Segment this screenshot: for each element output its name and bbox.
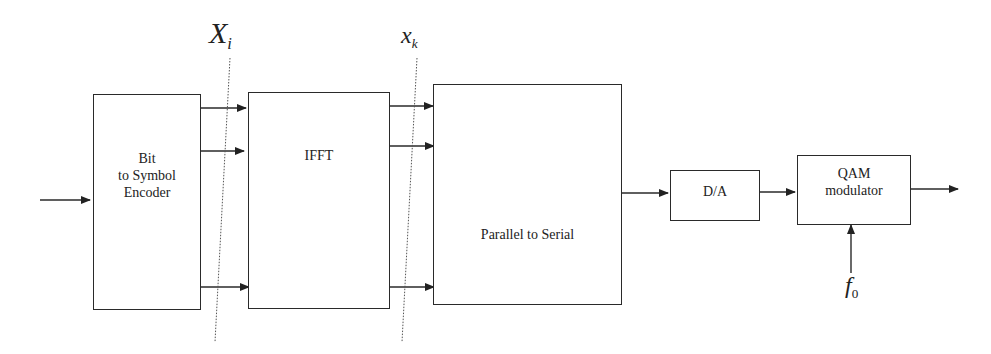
carrier-frequency-label: f0 <box>845 272 858 302</box>
p2s-label: Parallel to Serial <box>433 226 622 243</box>
freq-domain-symbol-label: Xi <box>209 16 232 54</box>
encoder-block <box>93 94 201 310</box>
encoder-label: Bit to Symbol Encoder <box>93 150 201 201</box>
qam-label: QAM modulator <box>797 165 911 199</box>
qam-label-line-2: modulator <box>797 182 911 199</box>
dac-label: D/A <box>670 183 760 200</box>
qam-label-line-1: QAM <box>797 165 911 182</box>
ifft-label: IFFT <box>248 147 390 164</box>
cut-line-time <box>402 58 417 342</box>
encoder-label-line-1: Bit <box>93 150 201 167</box>
p2s-block <box>433 84 622 305</box>
encoder-label-line-3: Encoder <box>93 184 201 201</box>
time-domain-symbol-label: xk <box>401 22 418 52</box>
cut-line-freq <box>215 58 230 342</box>
encoder-label-line-2: to Symbol <box>93 167 201 184</box>
ifft-block <box>248 92 390 309</box>
